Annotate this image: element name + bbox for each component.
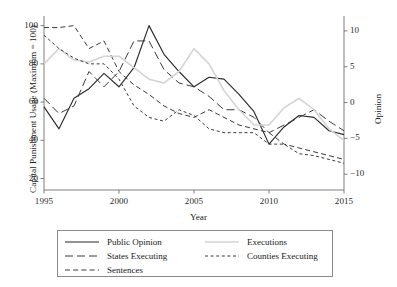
series-lines xyxy=(44,26,344,164)
legend-swatch-solid-icon xyxy=(64,237,100,247)
series-line-sentences xyxy=(44,26,344,160)
legend-swatch-solid-light-icon xyxy=(204,237,240,247)
legend-label: Sentences xyxy=(107,265,143,275)
x-tick-2005: 2005 xyxy=(185,196,203,206)
legend-label: Counties Executing xyxy=(247,251,318,261)
y-tick-left-20: 20 xyxy=(29,173,38,183)
x-tick-2000: 2000 xyxy=(110,196,128,206)
legend-swatch-dash-icon xyxy=(64,265,100,275)
legend-item-public-opinion[interactable]: Public Opinion xyxy=(64,235,162,248)
y-tick-right-0: −10 xyxy=(350,168,364,178)
y-tick-right-1: −5 xyxy=(350,132,360,142)
y-tick-left-60: 60 xyxy=(29,96,38,106)
y-tick-right-4: 10 xyxy=(350,25,359,35)
legend-item-states-executing[interactable]: States Executing xyxy=(64,249,167,262)
legend-swatch-shortdash-icon xyxy=(204,251,240,261)
legend-swatch-longdash-icon xyxy=(64,251,100,261)
legend-label: Executions xyxy=(247,237,287,247)
legend-item-executions[interactable]: Executions xyxy=(204,235,287,248)
x-tick-2015: 2015 xyxy=(335,196,353,206)
x-tick-2010: 2010 xyxy=(260,196,278,206)
axis-lines xyxy=(41,16,348,194)
series-line-executions xyxy=(44,49,344,141)
legend-item-sentences[interactable]: Sentences xyxy=(64,263,143,276)
y-tick-left-80: 80 xyxy=(29,58,38,68)
y-tick-right-3: 5 xyxy=(350,61,355,71)
series-line-public-opinion xyxy=(44,26,344,144)
legend-label: Public Opinion xyxy=(107,237,162,247)
x-tick-1995: 1995 xyxy=(35,196,53,206)
series-line-states-executing xyxy=(44,41,344,133)
chart-figure: Capital Punishment Usage (Maximum = 100)… xyxy=(0,0,397,287)
y-tick-left-40: 40 xyxy=(29,134,38,144)
legend-label: States Executing xyxy=(107,251,167,261)
legend-item-counties-executing[interactable]: Counties Executing xyxy=(204,249,318,262)
y-tick-right-2: 0 xyxy=(350,97,355,107)
legend: Public OpinionStates ExecutingSentencesE… xyxy=(57,230,333,277)
y-tick-left-100: 100 xyxy=(24,20,38,30)
